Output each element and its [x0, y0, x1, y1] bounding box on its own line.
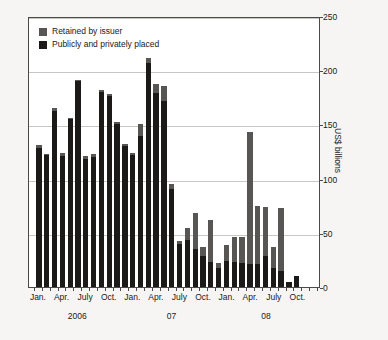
bar-slot [277, 18, 285, 287]
bar-slot [98, 18, 106, 287]
bar-stack[interactable] [130, 153, 135, 287]
bar-segment-placed [247, 264, 252, 287]
bar-segment-placed [239, 263, 244, 287]
bar-segment-placed [146, 63, 151, 287]
bar-stack[interactable] [208, 220, 213, 287]
bar-stack[interactable] [161, 86, 166, 287]
x-tick-mark [160, 288, 161, 291]
bar-stack[interactable] [75, 80, 80, 287]
bar-stack[interactable] [169, 184, 174, 287]
plot-area: Retained by issuer Publicly and privatel… [28, 17, 320, 288]
bar-stack[interactable] [185, 228, 190, 287]
x-tick-mark [42, 288, 43, 291]
x-tick-mark [231, 288, 232, 291]
bar-segment-placed [75, 81, 80, 287]
bar-stack[interactable] [52, 108, 57, 287]
bar-segment-placed [52, 111, 57, 287]
bar-segment-placed [91, 157, 96, 287]
bar-segment-placed [138, 136, 143, 287]
bar-stack[interactable] [278, 208, 283, 287]
bar-segment-retained [239, 237, 244, 263]
x-tick-mark [286, 288, 287, 291]
bar-stack[interactable] [286, 282, 291, 287]
bar-slot [129, 18, 137, 287]
y-tick-label: 50 [323, 229, 351, 239]
bar-stack[interactable] [271, 247, 276, 287]
bar-stack[interactable] [44, 154, 49, 287]
bar-stack[interactable] [255, 206, 260, 287]
bar-stack[interactable] [122, 144, 127, 287]
bar-slot [90, 18, 98, 287]
bar-segment-placed [185, 240, 190, 287]
bar-segment-retained [232, 237, 237, 262]
bar-segment-retained [271, 247, 276, 268]
x-group-label: 08 [261, 311, 270, 321]
bar-stack[interactable] [114, 122, 119, 287]
x-tick-mark [105, 288, 106, 291]
x-axis-group-labels: 20060708 [28, 311, 320, 325]
bar-stack[interactable] [138, 124, 143, 287]
bar-slot [191, 18, 199, 287]
bar-segment-placed [193, 249, 198, 287]
x-tick-mark [246, 288, 247, 291]
x-group-label: 07 [167, 311, 176, 321]
bar-stack[interactable] [224, 245, 229, 287]
bar-segment-retained [138, 124, 143, 136]
bar-stack[interactable] [107, 94, 112, 287]
bar-segment-placed [286, 282, 291, 287]
bar-stack[interactable] [200, 247, 205, 287]
x-tick-mark [270, 288, 271, 291]
x-tick-label: July [78, 292, 93, 302]
bar-stack[interactable] [216, 263, 221, 287]
bar-segment-retained [278, 208, 283, 271]
bar-slot [230, 18, 238, 287]
bar-stack[interactable] [193, 213, 198, 287]
bar-stack[interactable] [294, 276, 299, 287]
x-tick-label: Jan. [30, 292, 46, 302]
bar-slot [262, 18, 270, 287]
bar-segment-placed [44, 155, 49, 287]
bar-segment-placed [36, 148, 41, 287]
x-axis-labels: Jan.Apr.JulyOct.Jan.Apr.JulyOct.Jan.Apr.… [28, 292, 320, 306]
bar-stack[interactable] [99, 90, 104, 287]
bar-slot [207, 18, 215, 287]
bar-series-layer [29, 18, 319, 287]
x-tick-mark [301, 288, 302, 291]
bar-segment-placed [271, 268, 276, 288]
bar-stack[interactable] [36, 145, 41, 287]
x-tick-label: Oct. [195, 292, 211, 302]
y-tick-label: 150 [323, 120, 351, 130]
bar-stack[interactable] [146, 58, 151, 287]
bar-stack[interactable] [91, 154, 96, 287]
bar-stack[interactable] [177, 241, 182, 287]
x-tick-label: Jan. [124, 292, 140, 302]
x-tick-mark [128, 288, 129, 291]
bar-stack[interactable] [68, 118, 73, 287]
x-tick-mark [34, 288, 35, 291]
x-tick-mark [317, 288, 318, 291]
bar-segment-placed [208, 262, 213, 287]
x-tick-mark [65, 288, 66, 291]
x-tick-mark [58, 288, 59, 291]
bar-segment-placed [294, 276, 299, 287]
x-tick-mark [215, 288, 216, 291]
bar-segment-placed [130, 155, 135, 287]
y-tick-label: 200 [323, 66, 351, 76]
x-tick-mark [238, 288, 239, 291]
bar-stack[interactable] [247, 132, 252, 287]
bar-slot [168, 18, 176, 287]
bar-stack[interactable] [83, 156, 88, 287]
bar-stack[interactable] [60, 153, 65, 287]
x-tick-mark [199, 288, 200, 291]
bar-stack[interactable] [263, 207, 268, 287]
x-tick-label: July [266, 292, 281, 302]
bar-segment-placed [153, 93, 158, 287]
x-tick-mark [50, 288, 51, 291]
bar-segment-retained [193, 213, 198, 249]
bar-segment-retained [247, 132, 252, 264]
bar-stack[interactable] [232, 237, 237, 287]
bar-stack[interactable] [153, 84, 158, 287]
bar-slot [238, 18, 246, 287]
x-tick-mark [81, 288, 82, 291]
bar-stack[interactable] [239, 237, 244, 287]
